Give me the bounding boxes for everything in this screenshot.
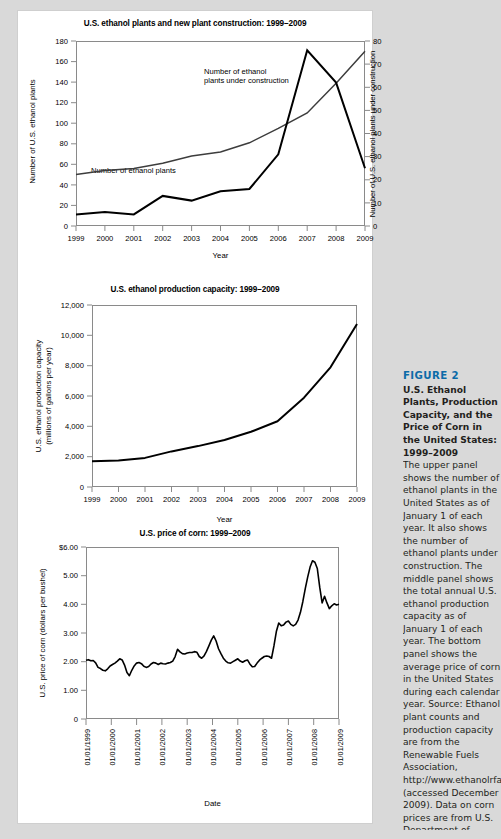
chart2-y-ticks — [87, 305, 92, 487]
svg-text:80: 80 — [60, 139, 68, 148]
svg-text:1999: 1999 — [84, 495, 101, 504]
svg-text:0: 0 — [74, 715, 78, 724]
chart2-y-tick-labels: 0 2,000 4,000 6,000 8,000 10,000 12,000 — [61, 301, 84, 492]
svg-text:2004: 2004 — [212, 234, 229, 243]
svg-text:8,000: 8,000 — [65, 361, 84, 370]
svg-text:80: 80 — [373, 37, 381, 46]
svg-text:0: 0 — [64, 222, 68, 231]
chart3-svg: 0 1.00 2.00 3.00 4.00 5.00 $6.00 — [18, 529, 372, 823]
svg-text:$6.00: $6.00 — [59, 543, 78, 552]
svg-text:5.00: 5.00 — [63, 571, 78, 580]
svg-text:60: 60 — [373, 83, 381, 92]
svg-text:01/01/2009: 01/01/2009 — [336, 729, 345, 766]
chart3-x-tick-labels: 01/01/1999 01/01/2000 01/01/2001 01/01/2… — [83, 729, 345, 766]
svg-text:160: 160 — [55, 57, 68, 66]
svg-text:120: 120 — [55, 98, 68, 107]
chart1-series-plants — [76, 51, 365, 174]
chart3-y-ticks — [81, 547, 86, 719]
svg-text:01/01/2003: 01/01/2003 — [184, 729, 193, 766]
svg-text:140: 140 — [55, 78, 68, 87]
svg-text:60: 60 — [60, 160, 68, 169]
svg-text:2005: 2005 — [243, 495, 260, 504]
svg-text:01/01/2008: 01/01/2008 — [310, 729, 319, 766]
svg-text:2006: 2006 — [270, 234, 287, 243]
chart1-x-ticks — [76, 226, 365, 231]
chart1-right-tick-labels: 0 10 20 30 40 50 60 70 80 — [373, 37, 381, 231]
svg-text:2000: 2000 — [96, 234, 113, 243]
chart1-svg: 0 20 40 60 80 100 120 140 160 180 — [18, 19, 372, 271]
chart1-right-ticks — [365, 41, 370, 226]
svg-text:1999: 1999 — [68, 234, 85, 243]
svg-text:2002: 2002 — [154, 234, 171, 243]
svg-text:20: 20 — [373, 175, 381, 184]
chart1-series-construction — [76, 50, 365, 214]
svg-text:2004: 2004 — [216, 495, 233, 504]
svg-text:50: 50 — [373, 106, 381, 115]
svg-text:01/01/2004: 01/01/2004 — [209, 729, 218, 766]
svg-text:40: 40 — [60, 181, 68, 190]
figure-panel: U.S. ethanol plants and new plant constr… — [18, 11, 372, 823]
svg-text:100: 100 — [55, 119, 68, 128]
svg-text:01/01/2000: 01/01/2000 — [108, 729, 117, 766]
chart-production-capacity: U.S. ethanol production capacity: 1999–2… — [18, 285, 372, 533]
svg-text:2008: 2008 — [328, 234, 345, 243]
svg-text:10,000: 10,000 — [61, 331, 84, 340]
chart1-left-ticks — [71, 41, 76, 226]
svg-text:2007: 2007 — [299, 234, 316, 243]
svg-text:4.00: 4.00 — [63, 600, 78, 609]
chart1-left-tick-labels: 0 20 40 60 80 100 120 140 160 180 — [55, 37, 68, 231]
chart-corn-price: U.S. price of corn: 1999–2009 U.S. price… — [18, 529, 372, 823]
svg-text:20: 20 — [60, 201, 68, 210]
svg-text:6,000: 6,000 — [65, 392, 84, 401]
svg-text:2.00: 2.00 — [63, 657, 78, 666]
chart2-x-tick-labels: 1999 2000 2001 2002 2003 2004 2005 2006 … — [84, 495, 366, 504]
figure-caption-body: The upper panel shows the number of etha… — [403, 459, 501, 830]
svg-text:1.00: 1.00 — [63, 686, 78, 695]
svg-text:2007: 2007 — [296, 495, 313, 504]
chart2-x-ticks — [92, 487, 357, 492]
svg-text:2006: 2006 — [269, 495, 286, 504]
svg-text:01/01/2005: 01/01/2005 — [234, 729, 243, 766]
svg-text:2009: 2009 — [357, 234, 374, 243]
svg-text:2003: 2003 — [183, 234, 200, 243]
svg-text:01/01/1999: 01/01/1999 — [83, 729, 92, 766]
svg-text:3.00: 3.00 — [63, 629, 78, 638]
figure-label: FIGURE 2 — [403, 370, 501, 383]
svg-text:2005: 2005 — [241, 234, 258, 243]
svg-text:2001: 2001 — [125, 234, 142, 243]
svg-text:30: 30 — [373, 152, 381, 161]
chart2-series-capacity — [92, 324, 357, 461]
chart3-x-ticks — [86, 719, 339, 725]
svg-text:2001: 2001 — [137, 495, 154, 504]
svg-text:2,000: 2,000 — [65, 452, 84, 461]
figure-caption-title: U.S. Ethanol Plants, Production Capacity… — [403, 384, 501, 460]
svg-text:4,000: 4,000 — [65, 422, 84, 431]
svg-text:01/01/2001: 01/01/2001 — [133, 729, 142, 766]
svg-text:2009: 2009 — [349, 495, 366, 504]
svg-text:70: 70 — [373, 60, 381, 69]
svg-text:01/01/2002: 01/01/2002 — [158, 729, 167, 766]
figure-page: U.S. ethanol plants and new plant constr… — [0, 0, 501, 839]
svg-text:40: 40 — [373, 129, 381, 138]
svg-text:2003: 2003 — [190, 495, 207, 504]
svg-text:0: 0 — [373, 222, 377, 231]
svg-text:12,000: 12,000 — [61, 301, 84, 310]
chart1-x-tick-labels: 1999 2000 2001 2002 2003 2004 2005 2006 … — [68, 234, 374, 243]
chart3-series-corn-price — [86, 561, 339, 676]
chart3-y-tick-labels: 0 1.00 2.00 3.00 4.00 5.00 $6.00 — [59, 543, 78, 724]
chart-ethanol-plants: U.S. ethanol plants and new plant constr… — [18, 19, 372, 271]
svg-text:01/01/2006: 01/01/2006 — [260, 729, 269, 766]
svg-text:10: 10 — [373, 199, 381, 208]
svg-text:01/01/2007: 01/01/2007 — [285, 729, 294, 766]
svg-text:0: 0 — [80, 483, 84, 492]
svg-text:2008: 2008 — [322, 495, 339, 504]
figure-caption: FIGURE 2 U.S. Ethanol Plants, Production… — [403, 370, 501, 830]
svg-text:2002: 2002 — [163, 495, 180, 504]
svg-text:180: 180 — [55, 37, 68, 46]
svg-text:2000: 2000 — [110, 495, 127, 504]
chart2-svg: 0 2,000 4,000 6,000 8,000 10,000 12,000 — [18, 285, 372, 533]
